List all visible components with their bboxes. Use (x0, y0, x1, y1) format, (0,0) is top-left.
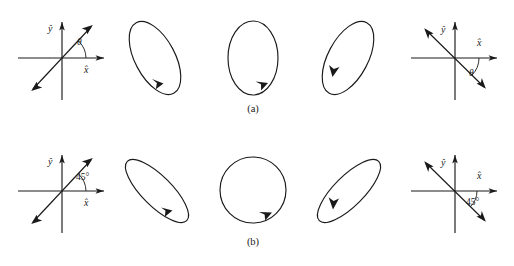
axes-diagram-right-b: x̂ ŷ 45° (411, 155, 497, 233)
subfigure-caption-b: (b) (247, 236, 260, 248)
polarization-ellipse-b3 (309, 151, 390, 232)
ellipse-path (220, 157, 286, 223)
axes-diagram-right-a: x̂ ŷ θ (411, 22, 497, 100)
polarization-vector-arrowhead-lower (477, 211, 486, 222)
ellipse-path (312, 13, 385, 102)
polarization-vector-arrowhead-lower (477, 78, 486, 89)
angle-label: θ (469, 68, 474, 78)
polarization-states-figure: x̂ ŷ θ x̂ ŷ (0, 0, 514, 266)
row-b: x̂ ŷ 45° x̂ ŷ (18, 151, 497, 248)
axes-diagram-left-b: x̂ ŷ 45° (18, 155, 104, 233)
x-axis-label: x̂ (83, 64, 89, 75)
rotation-arrowhead (329, 197, 339, 209)
polarization-vector-arrowhead-lower (31, 82, 42, 91)
polarization-ellipse-b1 (117, 151, 198, 232)
row-a: x̂ ŷ θ x̂ ŷ (18, 13, 497, 115)
y-axis-label: ŷ (47, 23, 53, 34)
angle-label: 45° (466, 197, 480, 207)
ellipse-path (117, 151, 198, 232)
subfigure-caption-a: (a) (247, 103, 259, 115)
polarization-vector-arrowhead-upper (424, 161, 433, 172)
rotation-arrowhead (259, 212, 272, 221)
polarization-ellipse-a1 (119, 13, 192, 102)
polarization-vector-arrowhead-lower (31, 215, 42, 224)
rotation-arrowhead (329, 65, 340, 77)
y-axis-label: ŷ (440, 157, 446, 168)
polarization-vector-arrowhead-upper (82, 158, 93, 167)
angle-label: θ (77, 37, 82, 47)
polarization-ellipse-a2 (228, 21, 278, 95)
x-axis-label: x̂ (476, 37, 482, 48)
x-axis-label: x̂ (83, 197, 89, 208)
y-axis-label: ŷ (47, 156, 53, 167)
axes-diagram-left-a: x̂ ŷ θ (18, 22, 104, 100)
ellipse-path (119, 13, 192, 102)
ellipse-path (228, 21, 278, 95)
polarization-ellipse-a3 (312, 13, 385, 102)
x-axis-label: x̂ (476, 170, 482, 181)
ellipse-path (309, 151, 390, 232)
polarization-vector-arrowhead-upper (82, 25, 93, 34)
polarization-ellipse-b2 (220, 157, 286, 223)
y-axis-label: ŷ (440, 24, 446, 35)
polarization-vector-arrowhead-upper (424, 28, 433, 39)
angle-label: 45° (76, 172, 90, 182)
